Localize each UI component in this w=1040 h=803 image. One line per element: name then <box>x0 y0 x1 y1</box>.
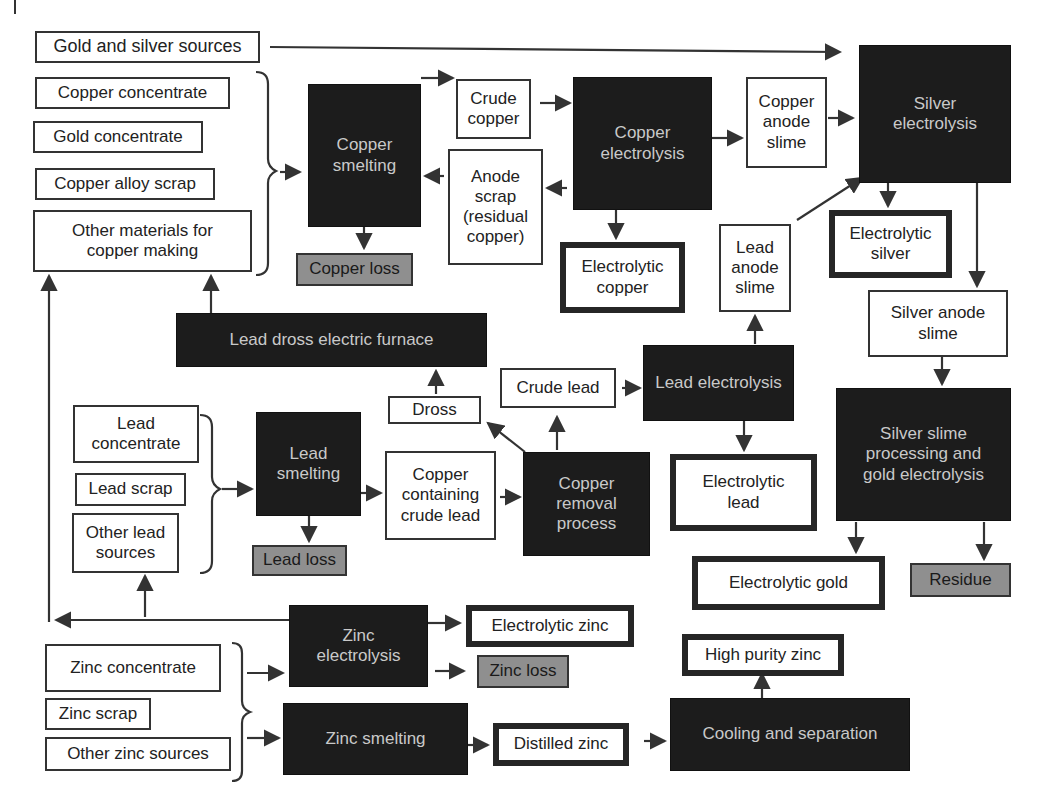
process-lead-electrolysis: Lead electrolysis <box>643 345 794 421</box>
node-other-lead-sources: Other lead sources <box>72 513 179 573</box>
process-cooling-separation: Cooling and separation <box>670 698 910 771</box>
node-silver-anode-slime: Silver anode slime <box>868 290 1008 357</box>
node-lead-concentrate: Lead concentrate <box>73 405 199 463</box>
node-copper-anode-slime: Copper anode slime <box>746 77 827 168</box>
process-lead-dross-furnace: Lead dross electric furnace <box>176 313 487 367</box>
node-dross: Dross <box>388 396 481 424</box>
node-anode-scrap: Anode scrap (residual copper) <box>448 149 543 265</box>
node-other-copper-materials: Other materials for copper making <box>33 210 252 272</box>
product-distilled-zinc: Distilled zinc <box>493 723 629 766</box>
node-copper-concentrate: Copper concentrate <box>35 77 230 109</box>
process-copper-removal: Copper removal process <box>523 452 650 556</box>
process-silver-electrolysis: Silver electrolysis <box>859 45 1011 183</box>
product-electrolytic-zinc: Electrolytic zinc <box>466 605 634 647</box>
node-zinc-concentrate: Zinc concentrate <box>45 644 221 692</box>
node-gold-silver-sources: Gold and silver sources <box>35 31 260 63</box>
process-zinc-electrolysis: Zinc electrolysis <box>289 605 428 687</box>
product-electrolytic-silver: Electrolytic silver <box>829 210 952 278</box>
process-copper-electrolysis: Copper electrolysis <box>573 77 712 210</box>
loss-zinc: Zinc loss <box>477 655 569 688</box>
process-zinc-smelting: Zinc smelting <box>283 703 468 775</box>
node-crude-copper: Crude copper <box>456 79 531 139</box>
product-high-purity-zinc: High purity zinc <box>682 634 844 676</box>
product-electrolytic-copper: Electrolytic copper <box>560 242 685 313</box>
node-crude-lead: Crude lead <box>500 368 616 408</box>
node-gold-concentrate: Gold concentrate <box>33 121 203 153</box>
process-copper-smelting: Copper smelting <box>308 84 421 227</box>
process-silver-slime-processing: Silver slime processing and gold electro… <box>836 388 1011 521</box>
product-electrolytic-lead: Electrolytic lead <box>670 454 817 531</box>
node-copper-containing-crude-lead: Copper containing crude lead <box>385 451 496 540</box>
loss-lead: Lead loss <box>252 545 347 576</box>
node-zinc-scrap: Zinc scrap <box>45 698 151 730</box>
loss-copper: Copper loss <box>296 253 413 286</box>
node-copper-alloy-scrap: Copper alloy scrap <box>35 168 215 200</box>
node-other-zinc-sources: Other zinc sources <box>45 737 231 771</box>
product-electrolytic-gold: Electrolytic gold <box>692 556 885 610</box>
node-lead-anode-slime: Lead anode slime <box>719 224 791 312</box>
process-lead-smelting: Lead smelting <box>256 412 361 516</box>
loss-residue: Residue <box>910 563 1011 597</box>
node-lead-scrap: Lead scrap <box>75 473 186 506</box>
